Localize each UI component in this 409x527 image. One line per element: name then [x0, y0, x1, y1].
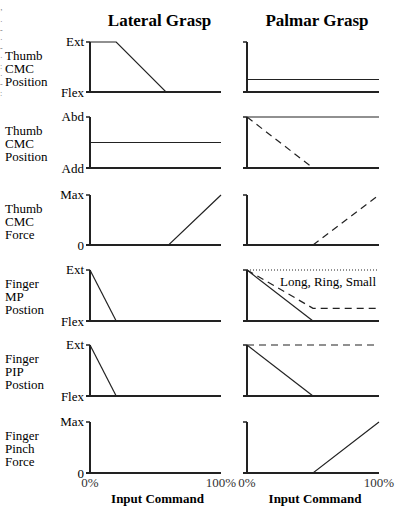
series-line-solid: [90, 42, 221, 92]
series-line-dashed: [247, 117, 313, 168]
series-annotation: Long, Ring, Small: [280, 274, 376, 289]
series-line-solid: [247, 422, 379, 473]
chart-panel: Max0: [60, 187, 221, 253]
chart-panel: [243, 117, 379, 168]
row-label: FingerPIPPostion: [5, 351, 45, 392]
row-label: ThumbCMCPosition: [5, 48, 48, 89]
y-tick-top: Max: [60, 414, 84, 429]
y-tick-top: Ext: [66, 34, 84, 49]
chart-panel: [243, 345, 379, 396]
chart-panel: Long, Ring, Small: [243, 270, 379, 321]
y-tick-bottom: Flex: [61, 314, 85, 329]
row-label: ThumbCMCPosition: [5, 123, 48, 164]
y-tick-bottom: Flex: [61, 85, 85, 100]
x-tick-start: 0%: [81, 475, 99, 490]
y-tick-top: Abd: [62, 109, 85, 124]
y-tick-bottom: Flex: [61, 389, 85, 404]
x-axis-labels: 0%100%Input Command0%100%Input Command: [81, 475, 394, 506]
x-tick-end: 100%: [364, 475, 395, 490]
y-tick-bottom: Add: [62, 161, 85, 176]
row-label-line: Force: [5, 227, 35, 242]
chart-panel: ExtFlex: [61, 34, 221, 100]
chart-panel: AbdAdd: [62, 109, 221, 176]
chart-panel: [243, 42, 379, 92]
chart-panel: ExtFlex: [61, 337, 221, 404]
row-label-line: Position: [5, 149, 48, 164]
x-tick-end: 100%: [206, 475, 237, 490]
column-title: Lateral Grasp: [108, 11, 211, 30]
column-titles: Lateral GraspPalmar Grasp: [108, 11, 369, 30]
chart-panel: [243, 195, 379, 245]
chart-panel: Max0: [60, 414, 221, 481]
row-label: FingerMPPostion: [5, 276, 45, 317]
y-tick-top: Max: [60, 187, 84, 202]
row-label: FingerPinchForce: [5, 428, 40, 469]
row-label-line: Force: [5, 454, 35, 469]
row-label-line: Position: [5, 74, 48, 89]
grasp-chart-figure: Lateral GraspPalmar Grasp ThumbCMCPositi…: [0, 0, 409, 527]
y-tick-top: Ext: [66, 337, 84, 352]
series-line-dashed: [313, 195, 379, 245]
x-axis-title: Input Command: [269, 491, 363, 506]
row-label-line: Postion: [5, 302, 45, 317]
row-label-line: Postion: [5, 377, 45, 392]
y-tick-bottom: 0: [78, 238, 85, 253]
series-line-solid: [90, 345, 116, 396]
chart-panel: ExtFlex: [61, 262, 221, 329]
series-line-solid: [247, 345, 313, 396]
row-label: ThumbCMCForce: [5, 201, 43, 242]
x-axis-title: Input Command: [111, 491, 205, 506]
chart-panels: ThumbCMCPositionExtFlexThumbCMCPositionA…: [5, 34, 379, 481]
column-title: Palmar Grasp: [265, 11, 368, 30]
y-tick-top: Ext: [66, 262, 84, 277]
x-tick-start: 0%: [238, 475, 256, 490]
series-line-solid: [90, 195, 221, 245]
chart-panel: [243, 422, 379, 473]
series-line-solid: [90, 270, 116, 321]
